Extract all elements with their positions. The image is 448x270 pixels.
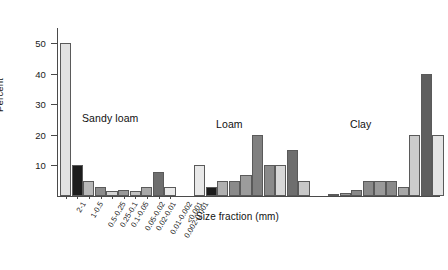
x-tick-mark — [77, 196, 78, 199]
x-axis-line — [57, 196, 440, 197]
bar — [351, 190, 362, 196]
x-tick-mark — [170, 196, 171, 199]
bar — [340, 193, 351, 196]
y-tick-mark — [51, 135, 57, 136]
bar — [432, 135, 443, 196]
y-tick-mark — [51, 165, 57, 166]
bar — [217, 181, 228, 196]
bar — [421, 74, 432, 196]
bar — [141, 187, 152, 196]
group-label: Clay — [350, 118, 371, 130]
x-tick-mark — [124, 196, 125, 199]
bar — [363, 181, 374, 196]
bar — [287, 150, 298, 196]
x-tick-mark — [66, 196, 67, 199]
bar — [164, 187, 175, 196]
y-axis-title: Percent — [0, 78, 5, 112]
bar — [275, 165, 286, 196]
y-tick-label: 20 — [22, 129, 46, 140]
bar — [264, 165, 275, 196]
bar — [240, 175, 251, 196]
x-axis-title: Size fraction (mm) — [196, 211, 279, 222]
bar — [206, 187, 217, 196]
y-tick-label: 30 — [22, 99, 46, 110]
x-tick-mark — [135, 196, 136, 199]
bar — [194, 165, 205, 196]
x-tick-label: 2-1 — [74, 200, 87, 214]
bar — [374, 181, 385, 196]
x-tick-mark — [101, 196, 102, 199]
y-tick-label: 10 — [22, 160, 46, 171]
bar — [409, 135, 420, 196]
y-tick-mark — [51, 43, 57, 44]
x-tick-label: 1-0.5 — [89, 200, 105, 219]
bar — [153, 172, 164, 196]
bar — [328, 194, 339, 196]
bar — [252, 135, 263, 196]
group-label: Sandy loam — [82, 112, 138, 124]
x-tick-mark — [159, 196, 160, 199]
bar — [83, 181, 94, 196]
y-tick-mark — [51, 104, 57, 105]
y-tick-label: 40 — [22, 68, 46, 79]
x-tick-mark — [147, 196, 148, 199]
x-tick-mark — [89, 196, 90, 199]
bar — [398, 187, 409, 196]
bar — [386, 181, 397, 196]
bar — [229, 181, 240, 196]
bar — [60, 43, 71, 196]
bar — [72, 165, 83, 196]
x-tick-mark — [112, 196, 113, 199]
group-label: Loam — [216, 118, 243, 130]
y-tick-label: 50 — [22, 38, 46, 49]
bar-chart: Percent Size fraction (mm) 1020304050 Sa… — [0, 0, 448, 270]
bar — [95, 187, 106, 196]
bar — [298, 181, 309, 196]
y-tick-mark — [51, 74, 57, 75]
